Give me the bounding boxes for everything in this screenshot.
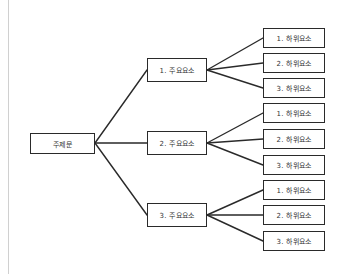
sub-node-2-2: 2. 하위요소 [263,129,325,149]
sub-node-3-2: 2. 하위요소 [263,205,325,225]
sub-node-1-2: 2. 하위요소 [263,53,325,73]
main-node-2: 2. 주요요소 [147,131,207,155]
sub-node-3-1: 1. 하위요소 [263,180,325,200]
root-node: 주제문 [30,133,95,154]
sub-node-1-3: 3. 하위요소 [263,78,325,98]
main-node-1: 1. 주요요소 [147,58,207,82]
sub-node-2-1: 1. 하위요소 [263,103,325,123]
sub-node-2-3: 3. 하위요소 [263,155,325,175]
sub-node-1-1: 1. 하위요소 [263,28,325,48]
main-node-3: 3. 주요요소 [147,203,207,227]
sub-node-3-3: 3. 하위요소 [263,231,325,251]
